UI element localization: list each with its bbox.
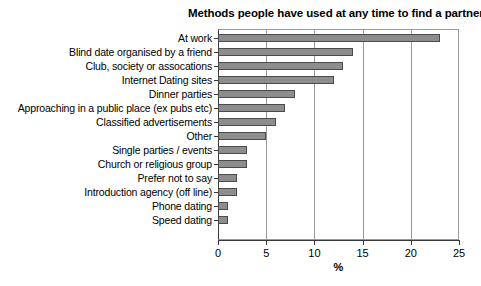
x-tick-label: 15 <box>356 247 368 259</box>
bar-track <box>218 143 481 157</box>
bar <box>218 48 353 56</box>
bar-track <box>218 115 481 129</box>
bar <box>218 132 266 140</box>
category-label: Single parties / events <box>0 145 215 156</box>
bar <box>218 76 334 84</box>
category-label: Prefer not to say <box>0 173 215 184</box>
category-label: Classified advertisements <box>0 117 215 128</box>
bar-track <box>218 213 481 227</box>
bar <box>218 104 285 112</box>
category-label: Club, society or assocations <box>0 61 215 72</box>
bar-row: Prefer not to say <box>0 171 481 185</box>
bar-row: At work <box>0 31 481 45</box>
bar-track <box>218 59 481 73</box>
bar <box>218 34 440 42</box>
bar-row: Phone dating <box>0 199 481 213</box>
bar-track <box>218 157 481 171</box>
bar-row: Blind date organised by a friend <box>0 45 481 59</box>
bar-row: Club, society or assocations <box>0 59 481 73</box>
bar-rows: At workBlind date organised by a friendC… <box>0 29 481 240</box>
bar <box>218 62 343 70</box>
bar-track <box>218 199 481 213</box>
bar <box>218 216 228 224</box>
category-label: Introduction agency (off line) <box>0 187 215 198</box>
x-tick-label: 20 <box>405 247 417 259</box>
bar-row: Internet Dating sites <box>0 73 481 87</box>
x-tick-label: 10 <box>308 247 320 259</box>
x-tick-label: 0 <box>215 247 221 259</box>
bar-chart: Methods people have used at any time to … <box>0 0 481 286</box>
category-label: Other <box>0 131 215 142</box>
bar <box>218 202 228 210</box>
bar-track <box>218 185 481 199</box>
bar-track <box>218 129 481 143</box>
x-tick-label: 5 <box>263 247 269 259</box>
bar-row: Dinner parties <box>0 87 481 101</box>
bar-row: Approaching in a public place (ex pubs e… <box>0 101 481 115</box>
x-tick-0 <box>218 240 219 245</box>
category-label: Speed dating <box>0 215 215 226</box>
bar-track <box>218 87 481 101</box>
bar <box>218 174 237 182</box>
category-label: Church or religious group <box>0 159 215 170</box>
bar-track <box>218 171 481 185</box>
x-tick-5 <box>266 240 267 245</box>
x-tick-10 <box>314 240 315 245</box>
x-axis-title: % <box>218 261 459 273</box>
category-label: Dinner parties <box>0 89 215 100</box>
bar-track <box>218 101 481 115</box>
category-label: At work <box>0 33 215 44</box>
x-tick-20 <box>411 240 412 245</box>
bar-track <box>218 45 481 59</box>
bar-row: Introduction agency (off line) <box>0 185 481 199</box>
bar-row: Speed dating <box>0 213 481 227</box>
category-label: Approaching in a public place (ex pubs e… <box>0 103 215 114</box>
x-tick-15 <box>363 240 364 245</box>
bar-row: Other <box>0 129 481 143</box>
x-tick-label: 25 <box>453 247 465 259</box>
bar-track <box>218 73 481 87</box>
bar-track <box>218 31 481 45</box>
bar-row: Classified advertisements <box>0 115 481 129</box>
category-label: Internet Dating sites <box>0 75 215 86</box>
category-label: Phone dating <box>0 201 215 212</box>
bar <box>218 118 276 126</box>
category-label: Blind date organised by a friend <box>0 47 215 58</box>
bar-row: Single parties / events <box>0 143 481 157</box>
chart-title: Methods people have used at any time to … <box>0 7 475 19</box>
x-tick-25 <box>459 240 460 245</box>
x-axis: 0510152025 <box>218 240 459 241</box>
bar <box>218 188 237 196</box>
bar <box>218 160 247 168</box>
bar <box>218 146 247 154</box>
bar-row: Church or religious group <box>0 157 481 171</box>
bar <box>218 90 295 98</box>
